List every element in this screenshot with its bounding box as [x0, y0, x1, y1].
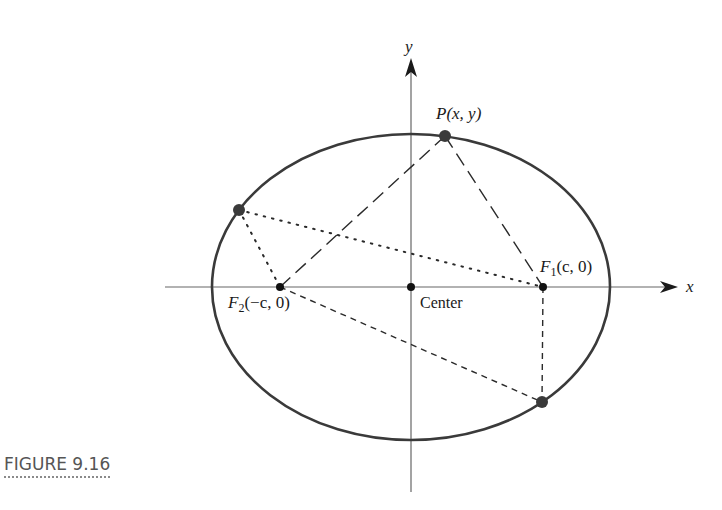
- focus-f1-label: F1(c, 0): [539, 257, 592, 279]
- point-q-bottom: [536, 396, 548, 408]
- center-point: [407, 283, 415, 291]
- focus-f1: [539, 283, 547, 291]
- point-p-label: P(x, y): [435, 104, 482, 123]
- ellipse-foci-diagram: x y P(x, y) F1(c, 0) F2(−c, 0) Center: [0, 0, 722, 510]
- segment-qleft-f2: [239, 210, 280, 287]
- segment-p-f1: [445, 136, 543, 287]
- focus-f2-label: F2(−c, 0): [227, 293, 290, 315]
- f1-label-rest: (c, 0): [556, 257, 592, 276]
- point-p: [439, 130, 451, 142]
- point-q-left: [233, 204, 245, 216]
- center-label: Center: [420, 294, 463, 311]
- segment-qleft-f1: [239, 210, 543, 287]
- segment-f1-qbottom: [542, 287, 543, 402]
- y-axis-label: y: [403, 37, 413, 56]
- f2-label-main: F: [227, 293, 239, 312]
- focus-f2: [276, 283, 284, 291]
- f2-label-rest: (−c, 0): [244, 293, 289, 312]
- x-axis-label: x: [685, 277, 694, 296]
- figure-caption: FIGURE 9.16: [4, 454, 110, 478]
- f1-label-main: F: [539, 257, 551, 276]
